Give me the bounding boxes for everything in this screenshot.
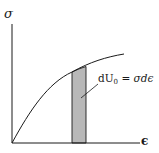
- stress-strain-diagram: σ ϵ dU0 = σdϵ: [0, 0, 159, 153]
- formula-prefix: dU: [98, 72, 114, 84]
- formula-equals: =: [118, 72, 133, 84]
- y-axis-label: σ: [4, 7, 13, 20]
- x-axis-label: ϵ: [141, 135, 148, 147]
- strain-energy-formula: dU0 = σdϵ: [98, 73, 153, 86]
- energy-strip: [72, 67, 86, 144]
- formula-rhs: σdϵ: [134, 72, 154, 84]
- stress-strain-curve: [12, 54, 124, 143]
